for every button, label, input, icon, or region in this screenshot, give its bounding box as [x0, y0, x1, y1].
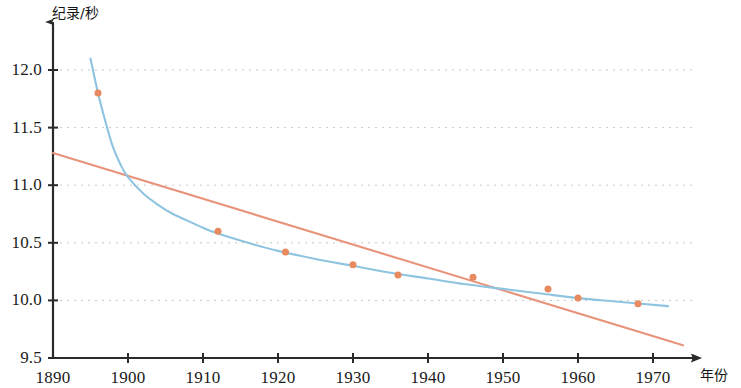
data-point-marker	[350, 261, 357, 268]
y-axis-title: 纪录/秒	[52, 2, 99, 22]
data-point-marker	[545, 285, 552, 292]
linear-fit-line	[53, 153, 683, 345]
x-axis-tick-label: 1940	[411, 368, 446, 388]
x-axis-tick-label: 1900	[111, 368, 146, 388]
data-point-marker	[575, 295, 582, 302]
x-axis-tick-label: 1920	[261, 368, 296, 388]
chart-plot-area	[0, 0, 741, 388]
x-axis-tick-label: 1930	[336, 368, 371, 388]
x-axis-tick-label: 1960	[561, 368, 596, 388]
curve-fit-line	[91, 58, 669, 306]
data-point-marker	[95, 90, 102, 97]
x-axis-tick-label: 1890	[36, 368, 71, 388]
x-axis-tick-label: 1970	[636, 368, 671, 388]
y-axis-tick-label: 10.5	[0, 233, 42, 253]
x-axis-tick-label: 1950	[486, 368, 521, 388]
y-axis-tick-label: 11.0	[0, 175, 42, 195]
data-point-marker	[470, 274, 477, 281]
data-point-marker	[215, 228, 222, 235]
x-axis-title: 年份	[700, 364, 728, 384]
y-axis-tick-label: 10.0	[0, 290, 42, 310]
y-axis-tick-label: 12.0	[0, 60, 42, 80]
data-point-marker	[635, 300, 642, 307]
gridlines-group	[53, 70, 693, 300]
y-axis-tick-label: 11.5	[0, 118, 42, 138]
data-points-group	[95, 90, 642, 308]
y-axis-tick-label: 9.5	[0, 348, 42, 368]
data-point-marker	[282, 249, 289, 256]
data-point-marker	[395, 272, 402, 279]
x-axis-tick-label: 1910	[186, 368, 221, 388]
chart-container: 纪录/秒 年份 9.510.010.511.011.512.0 18901900…	[0, 0, 741, 388]
